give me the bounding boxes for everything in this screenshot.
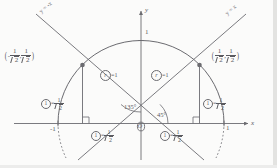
y-axis-label: y [145,7,148,14]
page-edge-right [273,0,277,168]
x-axis-label: x [251,120,254,127]
point-left-x-fraction: 1 2 [10,48,20,64]
point-right-y-denominator: 2 [226,55,236,64]
leg-horizontal-left-label: 1= 1 2 [91,129,114,143]
radius-right-label: r=1 [151,70,168,81]
point-right-x-numerator: 1 [215,48,225,55]
point-right-y-numerator: 1 [226,48,236,55]
point-right-close-paren: ) [236,51,238,60]
radius-left-value: 1 [114,72,117,78]
radius-right-symbol: r [151,70,162,81]
radius-left-symbol: r [100,70,111,81]
leg-vertical-left-label: 1= 1 2 [41,97,64,111]
leg-vertical-right-fraction: 1 2 [216,97,225,111]
leg-horizontal-right-denominator: 2 [173,135,182,143]
point-left-y-denominator: 2 [21,55,31,64]
point-left-coordinate-label: (- 1 2 , 1 2 ) [4,48,35,64]
point-right-x-denominator: 2 [215,55,225,64]
point-left-open-paren: ( [5,51,7,60]
dashed-arc-left [58,124,66,159]
point-left-y-numerator: 1 [21,48,31,55]
diagram-canvas: y = -x y = x x y -1 1 1 O (- 1 2 , 1 2 )… [0,0,277,168]
leg-horizontal-left-denominator: 2 [104,135,113,143]
leg-horizontal-left-circled: 1 [91,131,101,141]
angle-45-label: 45° [157,112,166,119]
right-angle-mark-right [193,117,200,124]
leg-vertical-left-circled: 1 [41,99,51,109]
angle-135-label: 135° [124,104,136,111]
radius-left-label: r=1 [100,70,117,81]
leg-horizontal-right-label: 1= 1 2 [160,129,183,143]
dashed-arc-right [216,124,224,159]
x-tick-right-label: 1 [226,125,230,132]
point-right-y-fraction: 1 2 [226,48,236,64]
point-left-x-denominator: 2 [10,55,20,64]
leg-horizontal-right-circled: 1 [160,131,170,141]
point-right-coordinate-label: ( 1 2 , 1 2 ) [211,48,239,64]
leg-horizontal-left-fraction: 1 2 [104,129,113,143]
origin-letter-label: O [138,123,143,130]
point-right-open-paren: ( [212,51,214,60]
point-left-close-paren: ) [32,51,34,60]
leg-vertical-right-denominator: 2 [216,103,225,111]
point-right-dot [197,63,202,68]
leg-vertical-right-circled: 1 [203,99,213,109]
x-tick-left-label: -1 [50,126,56,133]
leg-vertical-left-denominator: 2 [54,103,63,111]
right-angle-mark-left [83,117,90,124]
point-right-x-fraction: 1 2 [215,48,225,64]
radius-right-value: 1 [165,72,168,78]
leg-vertical-left-fraction: 1 2 [54,97,63,111]
page-edge-bottom [0,165,277,168]
point-left-y-fraction: 1 2 [21,48,31,64]
leg-vertical-right-label: 1= 1 2 [203,97,226,111]
leg-horizontal-right-fraction: 1 2 [173,129,182,143]
point-left-x-numerator: 1 [10,48,20,55]
point-left-dot [80,63,85,68]
y-tick-top-label: 1 [145,29,149,36]
diagram-vector-layer [0,0,277,168]
